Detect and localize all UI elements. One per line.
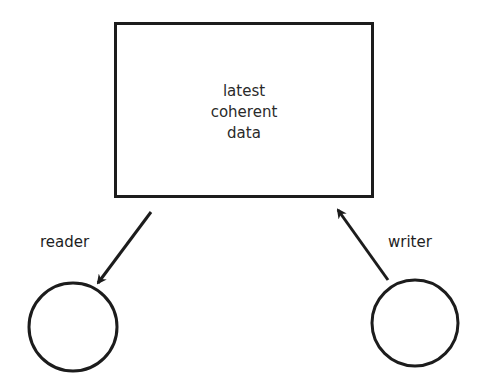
- reader-label: reader: [40, 233, 89, 251]
- reader-arrow: [98, 212, 151, 283]
- writer-label: writer: [388, 233, 432, 251]
- writer-arrow: [338, 210, 388, 280]
- reader-node-circle: [29, 283, 117, 371]
- writer-node-circle: [372, 280, 458, 366]
- diagram-shapes: [0, 0, 485, 388]
- diagram-canvas: latest coherent data reader writer: [0, 0, 485, 388]
